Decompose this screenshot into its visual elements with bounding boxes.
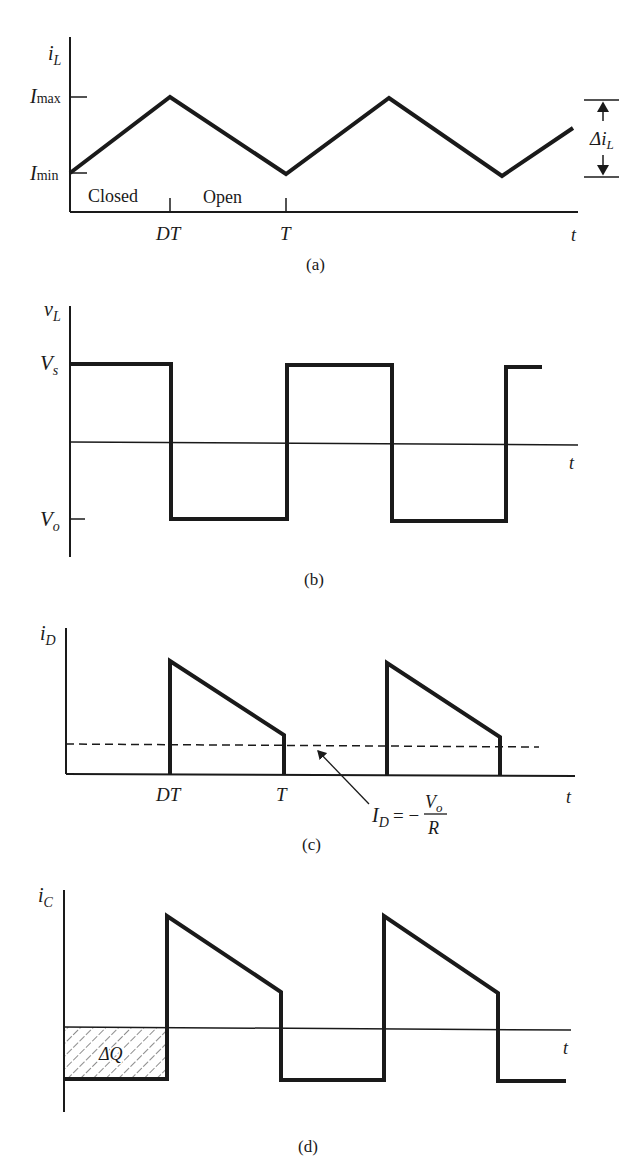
x-axis-label: t (571, 225, 577, 245)
t-tick-label: T (280, 223, 292, 244)
x-axis-label: t (569, 453, 575, 473)
y-axis-label: iC (38, 884, 54, 910)
diode-current-pulse-2 (387, 663, 500, 776)
y-axis-label: vL (44, 298, 61, 324)
zero-line (70, 442, 578, 445)
x-axis-label: t (566, 787, 572, 807)
svg-text:Vo: Vo (425, 792, 443, 815)
panel-a-caption: (a) (306, 255, 325, 274)
vs-label: Vs (40, 351, 59, 378)
closed-region-label: Closed (88, 186, 138, 206)
dt-tick-label: DT (155, 223, 182, 244)
y-axis-label: iL (48, 42, 62, 68)
annotation-arrow (318, 751, 369, 804)
panel-d-capacitor-current: iC ΔQ t (d) (38, 884, 571, 1156)
panel-a-inductor-current: iL Imax Imin Closed Open DT T t ΔiL (a) (29, 37, 619, 274)
panel-b-inductor-voltage: vL Vs Vo t (b) (40, 298, 578, 589)
diode-current-pulse-1 (170, 661, 284, 775)
t-tick-label: T (276, 784, 288, 805)
delta-q-label: ΔQ (98, 1044, 123, 1064)
panel-c-diode-current: iD DT T t ID = − Vo R (c) (40, 622, 575, 854)
x-axis-label: t (563, 1038, 569, 1058)
imin-label: Imin (29, 162, 58, 184)
open-region-label: Open (203, 187, 242, 207)
panel-d-caption: (d) (298, 1137, 318, 1156)
panel-c-caption: (c) (302, 835, 321, 854)
imax-label: Imax (29, 85, 61, 107)
inductor-current-trace (70, 97, 573, 176)
svg-text:ID: ID (371, 804, 389, 830)
average-current-formula: ID = − Vo R (371, 792, 447, 838)
waveform-figure: iL Imax Imin Closed Open DT T t ΔiL (a) … (0, 0, 634, 1157)
svg-text:R: R (427, 818, 439, 838)
y-axis-label: iD (40, 622, 56, 648)
vo-label: Vo (40, 507, 60, 534)
panel-b-caption: (b) (304, 570, 324, 589)
svg-text:= −: = − (393, 805, 419, 826)
dt-tick-label: DT (155, 784, 182, 805)
ripple-label: ΔiL (589, 128, 614, 152)
average-current-dashed-line (66, 744, 539, 747)
